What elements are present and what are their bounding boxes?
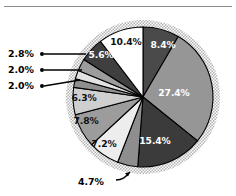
slice-label-27-4: 27.4% <box>158 87 189 98</box>
callout-label-4-7: 4.7% <box>78 176 105 187</box>
callout-dot-2-8 <box>40 52 44 56</box>
pie-chart-figure: 8.4%27.4%15.4%7.2%7.8%6.3%5.6%10.4% 2.8%… <box>0 0 236 196</box>
slice-label-10-4: 10.4% <box>110 36 141 47</box>
callout-dot-2-0-b <box>40 84 44 88</box>
pie-chart-canvas: 8.4%27.4%15.4%7.2%7.8%6.3%5.6%10.4% 2.8%… <box>0 0 236 196</box>
slice-label-15-4: 15.4% <box>139 135 170 146</box>
slice-label-6-3: 6.3% <box>71 92 96 103</box>
callout-label-2-0: 2.0% <box>8 80 35 91</box>
slice-label-5-6: 5.6% <box>88 49 113 60</box>
callout-label-2-8: 2.8% <box>8 48 35 59</box>
callout-label-2-0: 2.0% <box>8 64 35 75</box>
slice-label-8-4: 8.4% <box>150 39 175 50</box>
callout-dot-2-0-a <box>40 68 44 72</box>
slice-label-7-2: 7.2% <box>91 138 116 149</box>
slice-label-7-8: 7.8% <box>73 115 98 126</box>
